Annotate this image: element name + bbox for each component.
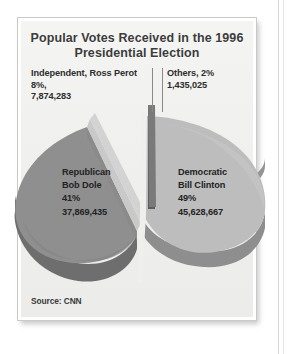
leader-line-others xyxy=(162,68,163,112)
slice-label-democratic: Democratic Bill Clinton 49% 45,628,667 xyxy=(178,166,270,219)
page-canvas: Popular Votes Received in the 1996 Presi… xyxy=(0,0,287,354)
figure-frame: Popular Votes Received in the 1996 Presi… xyxy=(18,18,256,320)
callout-label-perot: Independent, Ross Perot 8%, 7,874,283 xyxy=(31,68,153,103)
source-note: Source: CNN xyxy=(31,296,82,306)
page-margin-rule-secondary xyxy=(283,0,284,354)
figure-inner: Popular Votes Received in the 1996 Presi… xyxy=(21,21,253,317)
callout-label-others: Others, 2% 1,435,025 xyxy=(167,68,253,91)
slice-label-republican: Republican Bob Dole 41% 37,869,435 xyxy=(62,166,154,219)
page-margin-rule xyxy=(278,0,279,354)
